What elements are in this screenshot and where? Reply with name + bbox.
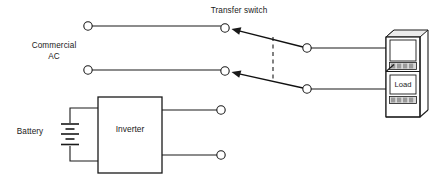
load-cabinet-grille-lower — [390, 97, 417, 104]
commercial-ac-label-line2: AC — [48, 52, 60, 61]
switch-terminal-lower-left — [221, 67, 229, 75]
load-cabinet-module-upper — [390, 40, 416, 61]
inverter-label: Inverter — [116, 124, 145, 134]
switch-terminal-lower-right — [303, 85, 311, 93]
switch-arm-lower[interactable] — [238, 74, 303, 88]
inverter-output-terminal-lower — [217, 151, 225, 159]
switch-arm-upper[interactable] — [238, 31, 303, 47]
commercial-ac-line-1 — [84, 22, 229, 32]
commercial-ac-line-2 — [84, 66, 229, 75]
switch-arm-upper-arrowhead — [232, 27, 242, 35]
inverter-output-terminal-upper — [217, 106, 225, 114]
load-cabinet: Load — [386, 30, 428, 117]
inverter-box — [98, 97, 162, 173]
load-cabinet-top-panel — [386, 30, 428, 37]
switch-terminal-upper-right — [303, 44, 311, 52]
ac-terminal-lower-left — [84, 66, 92, 74]
switch-terminal-upper-left — [221, 24, 229, 32]
inverter: Inverter — [98, 97, 162, 173]
transfer-switch-label: Transfer switch — [211, 6, 268, 15]
inverter-output-lower — [162, 151, 225, 159]
load-cabinet-grille-upper — [390, 63, 417, 70]
load-label: Load — [395, 80, 412, 89]
battery-label: Battery — [17, 127, 44, 136]
commercial-ac-label-line1: Commercial — [32, 41, 77, 50]
transfer-switch[interactable] — [232, 27, 312, 93]
ac-terminal-upper-left — [84, 22, 92, 30]
battery-wire-positive — [70, 108, 98, 123]
inverter-output-upper — [162, 106, 225, 114]
battery: Battery — [17, 108, 98, 161]
battery-wire-negative — [70, 146, 98, 161]
electrical-diagram: Commercial AC Transfer switch — [0, 0, 446, 184]
switch-arm-lower-arrowhead — [232, 70, 242, 77]
load-cabinet-base-depth — [420, 110, 428, 117]
